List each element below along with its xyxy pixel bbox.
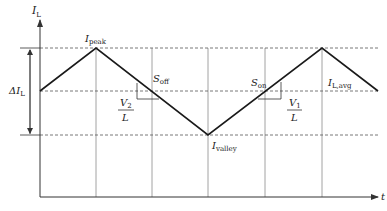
svg-text:L: L <box>290 112 298 123</box>
ripple-label: ΔIL <box>8 85 25 98</box>
slope-off-label: Soff <box>153 73 170 86</box>
inductor-current-waveform <box>40 48 378 135</box>
level-lines <box>40 48 380 135</box>
svg-text:L: L <box>121 112 129 123</box>
avg-label: IL,avg <box>327 77 352 90</box>
valley-label: Ivalley <box>211 140 237 153</box>
svg-text:V2: V2 <box>120 97 132 110</box>
vertical-gridlines <box>96 48 322 197</box>
axes <box>40 20 378 197</box>
y-axis-label: IL <box>31 4 41 19</box>
slope-off-fraction: V2 L <box>118 97 134 123</box>
slope-on-fraction: V1 L <box>287 97 302 123</box>
svg-text:V1: V1 <box>289 97 301 110</box>
inductor-current-diagram: IL t Ipeak Ivalley IL,avg ΔIL Soff V2 L … <box>0 0 387 211</box>
peak-label: Ipeak <box>84 33 107 46</box>
x-axis-label: t <box>381 191 386 202</box>
